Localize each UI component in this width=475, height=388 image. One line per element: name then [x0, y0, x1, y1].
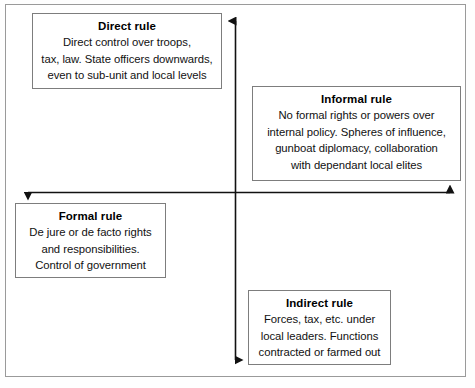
quadrant-body-line: Control of government	[21, 257, 160, 274]
quadrant-body-line: Forces, tax, etc. under	[254, 311, 385, 328]
quadrant-body-line: contracted or farmed out	[254, 344, 385, 361]
quadrant-body-line: tax, law. State officers downwards,	[38, 51, 216, 68]
quadrant-body-line: gunboat diplomacy, collaboration	[258, 140, 455, 157]
quadrant-body-direct-rule: Direct control over troops, tax, law. St…	[38, 34, 216, 84]
quadrant-body-line: with dependant local elites	[258, 157, 455, 174]
quadrant-body-line: internal policy. Spheres of influence,	[258, 124, 455, 141]
quadrant-box-formal-rule[interactable]: Formal rule De jure or de facto rights a…	[15, 203, 166, 278]
quadrant-title-informal-rule: Informal rule	[258, 91, 455, 107]
quadrant-box-informal-rule[interactable]: Informal rule No formal rights or powers…	[252, 86, 461, 181]
quadrant-body-line: No formal rights or powers over	[258, 107, 455, 124]
quadrant-body-line: Direct control over troops,	[38, 34, 216, 51]
quadrant-box-indirect-rule[interactable]: Indirect rule Forces, tax, etc. under lo…	[248, 290, 391, 365]
quadrant-body-indirect-rule: Forces, tax, etc. under local leaders. F…	[254, 311, 385, 361]
quadrant-title-formal-rule: Formal rule	[21, 208, 160, 224]
quadrant-diagram: Direct rule Direct control over troops, …	[0, 0, 475, 388]
quadrant-body-formal-rule: De jure or de facto rights and responsib…	[21, 224, 160, 274]
quadrant-title-direct-rule: Direct rule	[38, 18, 216, 34]
quadrant-body-informal-rule: No formal rights or powers over internal…	[258, 107, 455, 173]
quadrant-body-line: local leaders. Functions	[254, 328, 385, 345]
quadrant-body-line: and responsibilities.	[21, 241, 160, 258]
quadrant-body-line: even to sub-unit and local levels	[38, 67, 216, 84]
quadrant-body-line: De jure or de facto rights	[21, 224, 160, 241]
quadrant-box-direct-rule[interactable]: Direct rule Direct control over troops, …	[32, 13, 222, 89]
quadrant-title-indirect-rule: Indirect rule	[254, 295, 385, 311]
